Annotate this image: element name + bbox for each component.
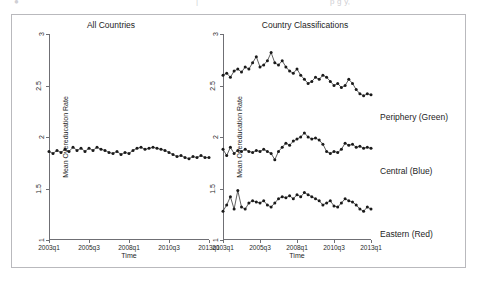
data-point [144,148,147,151]
data-point [251,61,254,64]
data-point [88,147,91,150]
data-point [321,74,324,77]
screenshot-root: ● | p g y, All Countries Mean Overeducat… [0,0,478,283]
data-point [284,142,287,145]
data-point [164,149,167,152]
data-point [307,193,310,196]
data-point [336,82,339,85]
data-point [236,189,239,192]
x-tick [129,240,130,243]
data-point [160,148,163,151]
data-point [314,76,317,79]
data-point [255,200,258,203]
data-point [299,74,302,77]
data-point [104,149,107,152]
data-point [273,61,276,64]
data-point [336,151,339,154]
data-point [236,149,239,152]
data-point [112,152,115,155]
data-point [266,59,269,62]
data-point [273,158,276,161]
data-point [259,201,262,204]
data-point [270,51,273,54]
data-point [281,195,284,198]
plot-area-country-classifications: Mean Overeducation Rate Time 11.522.5320… [223,34,371,240]
data-point [362,94,365,97]
data-point [259,65,262,68]
data-point [188,157,191,160]
data-point [351,143,354,146]
data-point [76,149,79,152]
data-point [247,68,250,71]
data-point [225,72,228,75]
data-point [321,143,324,146]
data-point [318,199,321,202]
x-tick [169,240,170,243]
data-point [124,151,127,154]
data-point [255,149,258,152]
data-point [281,146,284,149]
data-point [310,138,313,141]
data-point [333,205,336,208]
top-strip-fragment-0: ● [14,0,19,6]
data-point [229,146,232,149]
data-point [362,147,365,150]
data-point [288,70,291,73]
data-point [355,146,358,149]
data-point [325,150,328,153]
data-point [222,148,225,151]
data-point [270,152,273,155]
data-point [229,195,232,198]
data-point [333,84,336,87]
x-tick-label: 2008q1 [286,244,308,251]
data-point [277,197,280,200]
data-point [262,199,265,202]
x-tick-label: 2003q1 [212,244,234,251]
data-point [247,150,250,153]
data-point [266,203,269,206]
data-point [303,131,306,134]
data-point [233,208,236,211]
panel-country-classifications: Country Classifications Mean Overeducati… [202,15,382,269]
data-point [60,151,63,154]
data-point [120,153,123,156]
data-point [303,78,306,81]
x-tick-label: 2005q3 [78,244,100,251]
data-point [292,72,295,75]
data-point [255,55,258,58]
x-tick-label: 2008q1 [118,244,140,251]
data-point [370,208,373,211]
data-point [259,150,262,153]
cropped-text-strip: ● | p g y, [0,0,478,11]
data-point [307,82,310,85]
data-point [266,150,269,153]
y-tick-label: 2.5 [210,81,217,91]
data-point [180,154,183,157]
data-point [284,196,287,199]
data-point [132,149,135,152]
data-point [329,80,332,83]
data-point [225,203,228,206]
data-point [288,194,291,197]
data-point [116,150,119,153]
y-tick-label: 2 [213,135,220,139]
figure-frame: All Countries Mean Overeducation Rate Ti… [11,14,466,268]
data-point [329,199,332,202]
data-point [347,199,350,202]
x-tick [297,240,298,243]
legend-label-eastern: Eastern (Red) [380,229,433,239]
data-point [277,63,280,66]
y-tick-label: 1.5 [210,184,217,194]
data-point [296,68,299,71]
data-point [233,152,236,155]
y-tick-label: 1 [39,238,46,242]
data-point [344,197,347,200]
x-tick [334,240,335,243]
x-axis-title: Time [121,252,136,259]
data-point [156,147,159,150]
data-point [325,76,328,79]
data-point [229,76,232,79]
data-point [251,151,254,154]
data-point [240,206,243,209]
data-point [296,138,299,141]
